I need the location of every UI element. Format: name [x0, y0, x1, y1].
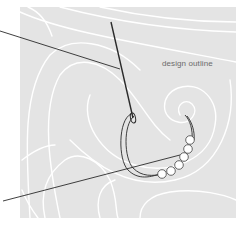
- bead: [158, 170, 167, 179]
- bead: [180, 153, 189, 162]
- bead: [175, 161, 184, 170]
- bead: [184, 145, 193, 154]
- bead: [186, 136, 195, 145]
- fabric-swatch: [20, 7, 236, 218]
- beading-diagram: design outline: [0, 0, 245, 226]
- bead: [167, 167, 176, 176]
- design-outline-label: design outline: [162, 59, 213, 68]
